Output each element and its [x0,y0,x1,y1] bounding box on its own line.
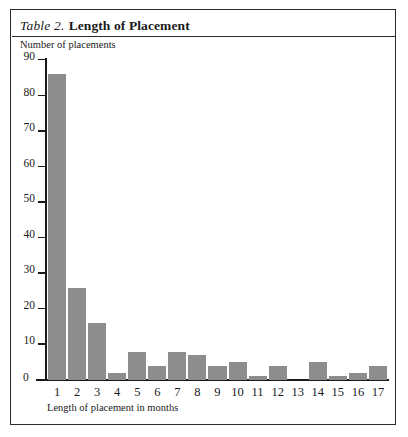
bar [88,323,106,380]
bar-slot: 12 [268,50,288,380]
y-tick-50: 50 [38,201,45,202]
bar [329,376,347,380]
y-tick-40: 40 [38,237,45,238]
y-tick-60: 60 [38,166,45,167]
bar-series: 1234567891011121314151617 [47,50,388,380]
bar [148,366,166,380]
x-tick-label-3: 3 [87,386,107,399]
bar [188,355,206,380]
bar-slot: 15 [328,50,348,380]
x-tick-label-6: 6 [147,386,167,399]
x-tick-label-16: 16 [348,386,368,399]
y-tick-label-30: 30 [24,264,36,276]
figure-title-main: Length of Placement [69,18,190,33]
bar-slot: 6 [147,50,167,380]
figure-title-prefix: Table 2. [20,18,65,33]
plot-area: 0102030405060708090 12345678910111213141… [45,50,390,380]
bar [108,373,126,380]
bar [309,362,327,380]
bar-slot: 3 [87,50,107,380]
y-tick-70: 70 [38,130,45,131]
bar-slot: 8 [187,50,207,380]
bar [168,352,186,380]
bar [128,352,146,380]
bar [68,288,86,380]
x-tick-label-12: 12 [268,386,288,399]
bar-slot: 9 [207,50,227,380]
bar-slot: 17 [368,50,388,380]
y-tick-10: 10 [38,343,45,344]
y-tick-label-70: 70 [24,122,36,134]
bar [369,366,387,380]
figure-title: Table 2. Length of Placement [20,16,190,34]
bar [349,373,367,380]
x-tick-label-2: 2 [67,386,87,399]
bar-slot: 2 [67,50,87,380]
bar-slot: 14 [308,50,328,380]
x-tick-label-7: 7 [167,386,187,399]
bar-slot: 5 [127,50,147,380]
x-tick-label-4: 4 [107,386,127,399]
y-tick-label-20: 20 [24,300,36,312]
bar [48,74,66,380]
bar [208,366,226,380]
bar-slot: 11 [248,50,268,380]
title-divider [12,36,396,37]
x-tick-label-15: 15 [328,386,348,399]
x-tick-label-11: 11 [248,386,268,399]
y-tick-label-0: 0 [23,372,29,384]
y-tick-20: 20 [38,308,45,309]
y-tick-label-90: 90 [24,51,36,63]
x-tick-label-8: 8 [187,386,207,399]
bar [229,362,247,380]
bar [249,376,267,380]
bar-slot: 7 [167,50,187,380]
x-axis-title: Length of placement in months [47,402,178,413]
figure-frame: Table 2. Length of Placement Number of p… [10,9,396,425]
y-tick-label-40: 40 [24,229,36,241]
y-tick-label-50: 50 [24,193,36,205]
y-axis-title: Number of placements [20,39,116,50]
y-tick-90: 90 [38,59,45,60]
bar-slot: 4 [107,50,127,380]
y-tick-label-10: 10 [24,335,36,347]
x-tick-label-5: 5 [127,386,147,399]
y-tick-30: 30 [38,272,45,273]
x-tick-label-1: 1 [47,386,67,399]
bar-slot: 10 [228,50,248,380]
bar-slot: 1 [47,50,67,380]
bar-slot: 16 [348,50,368,380]
y-tick-label-60: 60 [24,158,36,170]
x-tick-label-14: 14 [308,386,328,399]
x-tick-label-17: 17 [368,386,388,399]
y-tick-label-80: 80 [24,87,36,99]
bar [269,366,287,380]
x-tick-label-10: 10 [228,386,248,399]
y-tick-80: 80 [38,95,45,96]
x-tick-label-9: 9 [207,386,227,399]
bar-slot: 13 [288,50,308,380]
x-tick-label-13: 13 [288,386,308,399]
